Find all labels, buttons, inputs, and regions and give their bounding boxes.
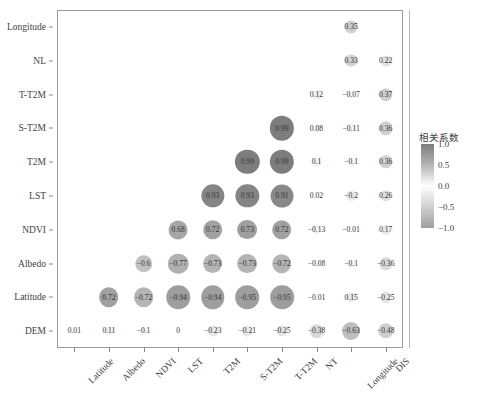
- matrix-cell: 0.99: [266, 147, 298, 177]
- matrix-cell: 0.72: [197, 215, 229, 245]
- correlation-value: 0.08: [310, 125, 323, 133]
- correlation-value: −0.48: [377, 327, 395, 335]
- matrix-cell: 0: [162, 316, 194, 346]
- matrix-cell: 0.02: [301, 181, 333, 211]
- matrix-cell: 0.26: [370, 181, 402, 211]
- correlation-value: −0.73: [239, 260, 257, 268]
- x-tick-mark: [178, 348, 179, 352]
- matrix-cell: −0.1: [335, 147, 367, 177]
- x-tick-mark: [213, 348, 214, 352]
- correlation-value: 0.68: [171, 226, 184, 234]
- matrix-cell: 0.93: [231, 181, 263, 211]
- matrix-cell: 0.99: [231, 147, 263, 177]
- legend: 相关系数 1.00.50.0−0.5−1.0: [419, 130, 481, 236]
- x-tick-label-ndvi: NDVI: [153, 356, 177, 380]
- correlation-value: −0.21: [239, 327, 257, 335]
- matrix-cell: −0.21: [231, 316, 263, 346]
- correlation-value: 0.93: [206, 192, 219, 200]
- correlation-value: −0.73: [204, 260, 222, 268]
- y-tick-label-ndvi: NDVI: [22, 225, 46, 235]
- correlation-value: −0.23: [204, 327, 222, 335]
- matrix-cell: 0.36: [370, 113, 402, 143]
- correlation-value: −0.01: [308, 294, 326, 302]
- correlation-value: 0: [176, 327, 180, 335]
- correlation-value: 0.12: [310, 91, 323, 99]
- correlation-value: 0.93: [241, 192, 254, 200]
- legend-tick-label: 1.0: [438, 139, 449, 149]
- x-tick-label-latitude: Latitude: [87, 356, 116, 385]
- correlation-value: −0.94: [204, 294, 222, 302]
- correlation-value: 0.26: [379, 192, 392, 200]
- matrix-cell: 0.72: [93, 282, 125, 312]
- matrix-cell: −0.1: [335, 249, 367, 279]
- correlation-value: −0.01: [342, 226, 360, 234]
- matrix-cell: 0.15: [335, 282, 367, 312]
- matrix-cell: −0.36: [370, 249, 402, 279]
- correlation-value: 0.22: [379, 57, 392, 65]
- correlation-value: 0.72: [275, 226, 288, 234]
- x-tick-label-nt: NT: [323, 356, 339, 372]
- correlation-value: 0.72: [206, 226, 219, 234]
- correlation-value: 0.17: [379, 226, 392, 234]
- y-tick-label-albedo: Albedo: [18, 259, 46, 269]
- matrix-cell: −0.6: [128, 249, 160, 279]
- matrix-cell: −0.63: [335, 316, 367, 346]
- correlation-value: 0.01: [68, 327, 81, 335]
- matrix-cell: 0.22: [370, 46, 402, 76]
- correlation-value: 0.99: [275, 158, 288, 166]
- correlation-value: 0.15: [344, 294, 357, 302]
- matrix-cell: 0.1: [301, 147, 333, 177]
- y-tick-mark: [49, 195, 53, 196]
- correlation-value: −0.72: [273, 260, 291, 268]
- correlation-value: −0.1: [344, 158, 358, 166]
- matrix-cell: 0.08: [301, 113, 333, 143]
- correlation-value: 0.02: [310, 192, 323, 200]
- y-tick-mark: [49, 263, 53, 264]
- y-tick-mark: [49, 60, 53, 61]
- correlation-value: 0.99: [241, 158, 254, 166]
- matrix-cell: 0.12: [301, 80, 333, 110]
- y-tick-label-nl: NL: [33, 56, 46, 66]
- matrix-cell: −0.73: [197, 249, 229, 279]
- y-tick-mark: [49, 331, 53, 332]
- correlation-value: −0.25: [273, 327, 291, 335]
- matrix-cell: −0.25: [370, 282, 402, 312]
- correlation-value: 0.36: [379, 158, 392, 166]
- x-tick-label-longitude: Longitude: [366, 356, 401, 391]
- y-tick-mark: [49, 26, 53, 27]
- correlation-value: −0.1: [344, 260, 358, 268]
- legend-divider: [409, 10, 410, 348]
- correlation-value: 0.37: [379, 91, 392, 99]
- correlation-value: 0.72: [102, 294, 115, 302]
- correlation-value: −0.11: [342, 125, 359, 133]
- correlation-value: 0.1: [312, 158, 322, 166]
- correlation-value: −0.08: [308, 260, 326, 268]
- matrix-cell: −0.01: [301, 282, 333, 312]
- matrix-cell: 0.91: [266, 181, 298, 211]
- correlation-value: 0.91: [275, 192, 288, 200]
- y-tick-label-s-t2m: S-T2M: [19, 123, 46, 133]
- correlation-value: −0.13: [308, 226, 326, 234]
- correlation-value: −0.38: [308, 327, 326, 335]
- correlation-value: 0.11: [102, 327, 115, 335]
- matrix-cell: 0.68: [162, 215, 194, 245]
- matrix-cell: 0.11: [93, 316, 125, 346]
- legend-tick-label: −1.0: [438, 223, 454, 233]
- y-axis: LongitudeNLT-T2MS-T2MT2MLSTNDVIAlbedoLat…: [0, 10, 53, 348]
- correlation-value: −0.2: [344, 192, 358, 200]
- correlation-value: −0.25: [377, 294, 395, 302]
- matrix-cell: −0.01: [335, 215, 367, 245]
- y-tick-mark: [49, 297, 53, 298]
- x-tick-mark: [109, 348, 110, 352]
- x-axis: LatitudeAlbedoNDVILSTT2MS-T2MT-T2MNTLong…: [57, 348, 403, 411]
- matrix-cell: −0.73: [231, 249, 263, 279]
- matrix-cell: 0.73: [231, 215, 263, 245]
- y-tick-label-latitude: Latitude: [14, 292, 46, 302]
- matrix-cell: −0.95: [266, 282, 298, 312]
- matrix-cell: −0.23: [197, 316, 229, 346]
- x-tick-label-lst: LST: [186, 356, 205, 375]
- matrix-cell: −0.94: [162, 282, 194, 312]
- x-tick-label-t2m: T2M: [221, 356, 242, 377]
- correlation-value: −0.07: [342, 91, 360, 99]
- y-tick-mark: [49, 162, 53, 163]
